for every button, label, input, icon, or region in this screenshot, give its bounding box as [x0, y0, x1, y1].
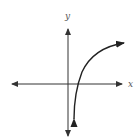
log-curve — [74, 43, 124, 119]
y-axis-label: y — [64, 11, 71, 21]
x-axis-label: x — [128, 79, 133, 89]
graph-canvas: y x — [0, 0, 137, 139]
